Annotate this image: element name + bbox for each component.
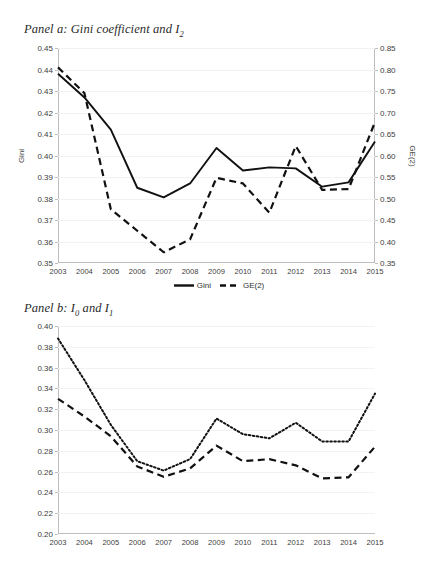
y-axis-tick-label: 0.26 [37, 467, 53, 476]
y2-axis-tick-mark [375, 199, 378, 200]
x-axis-tick-label: 2004 [76, 538, 93, 547]
y2-axis-tick-mark [375, 156, 378, 157]
y2-axis-tick-mark [375, 70, 378, 71]
panel-b-title-text-mid: and I [79, 301, 109, 315]
y-axis-tick-label: 0.40 [37, 151, 53, 160]
y2-axis-tick-mark [375, 91, 378, 92]
y2-axis-tick-label: 0.55 [380, 173, 396, 182]
y2-axis-tick-label: 0.40 [380, 237, 396, 246]
legend-swatch-icon [220, 281, 240, 290]
panel-a-y-axis-title: Gini [17, 148, 26, 162]
panel-a-series-lines [58, 48, 375, 263]
x-axis-tick-label: 2008 [182, 538, 199, 547]
panel-a-title: Panel a: Gini coefficient and I2 [24, 22, 184, 39]
y2-axis-tick-label: 0.75 [380, 87, 396, 96]
x-axis-tick-label: 2014 [340, 538, 357, 547]
x-axis-tick-label: 2008 [182, 267, 199, 276]
panel-a-y2-axis-title: GE(2) [408, 145, 417, 166]
legend-label: Gini [197, 281, 211, 290]
x-axis-tick-label: 2011 [261, 267, 277, 276]
y-axis-tick-mark [55, 534, 58, 535]
y-axis-tick-label: 0.45 [37, 44, 53, 53]
y-axis-tick-label: 0.40 [37, 322, 53, 331]
x-axis-tick-label: 2015 [367, 538, 384, 547]
x-axis-tick-label: 2015 [367, 267, 384, 276]
x-axis-tick-label: 2010 [234, 267, 251, 276]
y2-axis-tick-mark [375, 134, 378, 135]
x-axis-tick-label: 2003 [50, 538, 67, 547]
x-axis-tick-label: 2010 [234, 538, 251, 547]
legend-item-ge2[interactable]: GE(2) [220, 281, 264, 290]
y-axis-tick-mark [55, 263, 58, 264]
y2-axis-tick-label: 0.80 [380, 65, 396, 74]
panel-b-plot-area: 0.200.220.240.260.280.300.320.340.360.38… [58, 326, 375, 534]
panel-b-title-subscript-1: 1 [109, 308, 113, 318]
panel-a-title-subscript: 2 [180, 29, 184, 39]
x-axis-tick-label: 2005 [102, 267, 119, 276]
y-axis-tick-label: 0.39 [37, 173, 53, 182]
series-line-ge1 [58, 338, 375, 470]
figure-two-panel-inequality-chart: Panel a: Gini coefficient and I2 Gini GE… [0, 0, 438, 572]
panel-b-title-text: Panel b: I [24, 301, 75, 315]
y-axis-tick-label: 0.30 [37, 426, 53, 435]
y-axis-tick-label: 0.42 [37, 108, 53, 117]
x-axis-tick-label: 2013 [314, 538, 331, 547]
panel-b-title: Panel b: I0 and I1 [24, 301, 113, 318]
y-axis-tick-label: 0.44 [37, 65, 53, 74]
y2-axis-tick-mark [375, 220, 378, 221]
y2-axis-tick-mark [375, 242, 378, 243]
x-axis-tick-label: 2014 [340, 267, 357, 276]
legend-swatch-icon [174, 281, 194, 290]
panel-a-title-text: Panel a: Gini coefficient and I [24, 22, 180, 36]
y2-axis-tick-label: 0.50 [380, 194, 396, 203]
y2-axis-tick-mark [375, 263, 378, 264]
legend-item-gini[interactable]: Gini [174, 281, 211, 290]
panel-b: Panel b: I0 and I1 0.200.220.240.260.280… [0, 296, 438, 572]
y2-axis-tick-label: 0.45 [380, 216, 396, 225]
x-axis-tick-label: 2013 [314, 267, 331, 276]
y2-axis-tick-label: 0.60 [380, 151, 396, 160]
panel-a: Panel a: Gini coefficient and I2 Gini GE… [0, 0, 438, 300]
y2-axis-tick-label: 0.85 [380, 44, 396, 53]
y-axis-tick-label: 0.37 [37, 216, 53, 225]
y-axis-tick-label: 0.28 [37, 446, 53, 455]
x-axis-tick-label: 2009 [208, 267, 225, 276]
panel-a-plot-area: Gini GE(2) 0.350.360.370.380.390.400.410… [58, 48, 375, 263]
x-axis-tick-label: 2006 [129, 267, 146, 276]
y-axis-tick-label: 0.38 [37, 342, 53, 351]
series-line-gini [58, 74, 375, 198]
y-axis-tick-label: 0.22 [37, 509, 53, 518]
x-axis-tick-label: 2005 [102, 538, 119, 547]
series-line-ge0 [58, 399, 375, 479]
y-axis-tick-label: 0.36 [37, 363, 53, 372]
x-axis-tick-label: 2007 [155, 538, 172, 547]
x-axis-tick-label: 2012 [287, 538, 304, 547]
x-axis-tick-label: 2003 [50, 267, 67, 276]
x-axis-tick-label: 2007 [155, 267, 172, 276]
y-axis-tick-label: 0.38 [37, 194, 53, 203]
y-axis-tick-label: 0.43 [37, 87, 53, 96]
y-axis-tick-label: 0.41 [37, 130, 53, 139]
y2-axis-tick-label: 0.65 [380, 130, 396, 139]
x-axis-tick-label: 2006 [129, 538, 146, 547]
legend-label: GE(2) [243, 281, 264, 290]
panel-a-legend: GiniGE(2) [0, 281, 438, 290]
y-axis-tick-label: 0.34 [37, 384, 53, 393]
series-line-ge2 [58, 67, 375, 252]
y2-axis-tick-mark [375, 177, 378, 178]
y-axis-tick-label: 0.36 [37, 237, 53, 246]
y-axis-tick-label: 0.32 [37, 405, 53, 414]
x-axis-tick-label: 2009 [208, 538, 225, 547]
y-axis-tick-label: 0.24 [37, 488, 53, 497]
panel-b-series-lines [58, 326, 375, 534]
y2-axis-tick-label: 0.70 [380, 108, 396, 117]
y2-axis-tick-mark [375, 113, 378, 114]
x-axis-tick-label: 2004 [76, 267, 93, 276]
x-axis-tick-label: 2012 [287, 267, 304, 276]
x-axis-tick-label: 2011 [261, 538, 277, 547]
y2-axis-tick-mark [375, 48, 378, 49]
